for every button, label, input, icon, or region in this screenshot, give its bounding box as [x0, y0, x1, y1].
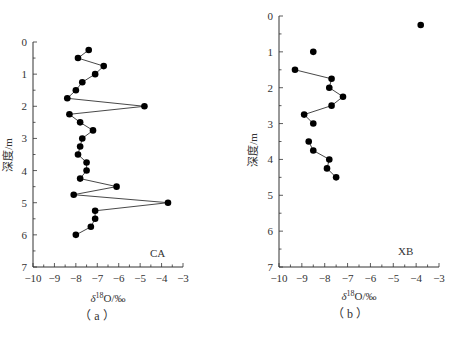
x-tick-label: −3: [433, 272, 445, 284]
data-point: [79, 135, 86, 142]
data-point: [326, 156, 333, 163]
data-point: [310, 120, 317, 127]
chart-panel-a: 01234567−10−9−8−7−6−5−4−3δ18O/‰深度/mCA（ a…: [1, 36, 189, 323]
data-point: [324, 165, 331, 172]
y-axis-title: 深度/m: [1, 138, 14, 172]
figure: 01234567−10−9−8−7−6−5−4−3δ18O/‰深度/mCA（ a…: [0, 0, 453, 337]
data-point: [66, 111, 73, 118]
data-point: [92, 71, 99, 78]
data-point: [92, 207, 99, 214]
data-point: [417, 22, 424, 29]
data-point: [310, 49, 317, 56]
data-point: [141, 103, 148, 110]
data-point: [77, 175, 84, 182]
y-tick-label: 0: [268, 10, 274, 22]
data-point: [70, 191, 77, 198]
panel-caption: （ a ）: [79, 309, 114, 323]
panel-label: CA: [150, 247, 165, 259]
panel-label: XB: [398, 245, 413, 257]
data-point: [85, 47, 92, 54]
x-tick-label: −5: [387, 272, 399, 284]
data-point: [75, 55, 82, 62]
y-tick-label: 4: [22, 165, 28, 177]
x-tick-label: −8: [319, 272, 331, 284]
y-axis-title: 深度/m: [246, 133, 259, 167]
x-tick-label: −10: [270, 272, 288, 284]
data-point: [77, 143, 84, 150]
series-line: [67, 50, 168, 235]
x-axis-title: δ18O/‰: [90, 291, 125, 304]
y-tick-label: 6: [22, 229, 28, 241]
data-point: [301, 111, 308, 118]
panel-caption: （ b ）: [332, 307, 368, 321]
data-point: [100, 63, 107, 70]
x-tick-label: −10: [24, 272, 42, 284]
data-point: [310, 147, 317, 154]
y-tick-label: 3: [268, 118, 274, 130]
y-tick-label: 3: [22, 132, 28, 144]
y-tick-label: 6: [268, 225, 274, 237]
data-point: [75, 151, 82, 158]
data-point: [83, 159, 90, 166]
y-tick-label: 2: [268, 82, 274, 94]
x-tick-label: −5: [134, 272, 146, 284]
data-point: [83, 167, 90, 174]
data-point: [90, 127, 97, 134]
x-tick-label: −9: [296, 272, 308, 284]
data-point: [165, 199, 172, 206]
data-point: [92, 215, 99, 222]
chart-panel-b: 01234567−10−9−8−7−6−5−4−3δ18O/‰深度/mXB（ b…: [246, 10, 445, 321]
x-tick-label: −4: [410, 272, 422, 284]
data-point: [113, 183, 120, 190]
data-point: [64, 95, 71, 102]
x-tick-label: −8: [70, 272, 82, 284]
data-point: [292, 66, 299, 73]
data-point: [77, 119, 84, 126]
data-point: [88, 224, 95, 231]
data-point: [340, 93, 347, 100]
y-tick-label: 0: [22, 36, 28, 48]
data-point: [73, 232, 80, 239]
data-point: [79, 79, 86, 86]
x-tick-label: −7: [342, 272, 354, 284]
x-tick-label: −3: [177, 272, 189, 284]
x-tick-label: −4: [156, 272, 168, 284]
y-tick-label: 1: [268, 46, 274, 58]
y-tick-label: 5: [268, 189, 274, 201]
x-tick-label: −7: [91, 272, 103, 284]
data-point: [328, 102, 335, 109]
data-point: [326, 84, 333, 91]
x-tick-label: −6: [113, 272, 125, 284]
x-tick-label: −9: [49, 272, 61, 284]
data-point: [305, 138, 312, 145]
y-tick-label: 1: [22, 68, 28, 80]
data-point: [333, 174, 340, 181]
y-tick-label: 4: [268, 153, 274, 165]
y-tick-label: 2: [22, 100, 28, 112]
x-tick-label: −6: [365, 272, 377, 284]
data-point: [328, 75, 335, 82]
x-axis-title: δ18O/‰: [341, 289, 376, 302]
y-tick-label: 5: [22, 197, 28, 209]
data-point: [73, 87, 80, 94]
